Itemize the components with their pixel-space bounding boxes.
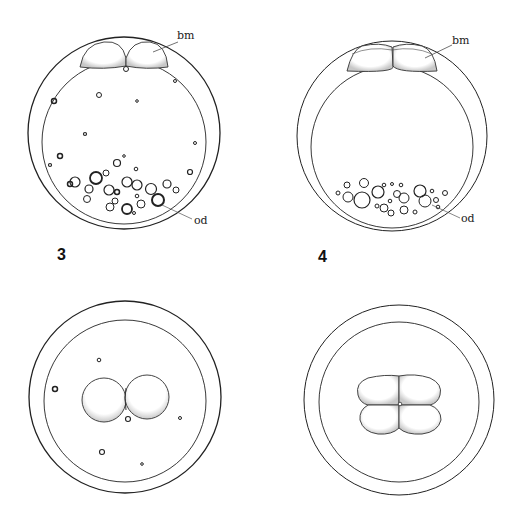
panel-3: bm xyxy=(28,29,220,263)
blastomere-left xyxy=(80,42,126,68)
panel-number-3: 3 xyxy=(57,246,66,263)
blastomere-lower-right xyxy=(399,405,441,434)
panel-number-4: 4 xyxy=(318,248,327,265)
panel-bottom-left xyxy=(29,301,221,493)
blastomere-left xyxy=(347,44,393,71)
blastomere-upper-left xyxy=(357,375,399,405)
blastomere-right xyxy=(125,375,169,419)
panel-bottom-right xyxy=(304,305,494,495)
panel-4: bm od 4 xyxy=(297,34,487,265)
blastomere-right xyxy=(393,44,437,71)
blastomere-upper-right xyxy=(399,375,441,405)
blastomere-lower-left xyxy=(360,405,399,434)
od-label: od xyxy=(461,212,475,225)
bm-label: bm xyxy=(177,29,195,42)
od-label: od xyxy=(194,214,208,227)
bm-label: bm xyxy=(452,34,470,47)
embryo-figure: bm xyxy=(0,0,517,522)
cleavage-junction xyxy=(398,402,402,406)
blastomere-right xyxy=(126,42,168,68)
blastomere-left xyxy=(82,378,126,422)
yolk-membrane xyxy=(311,66,473,228)
yolk-membrane xyxy=(42,60,206,224)
oil-droplets xyxy=(49,67,197,215)
oil-droplets xyxy=(336,179,448,217)
chorion-outer xyxy=(297,41,487,231)
